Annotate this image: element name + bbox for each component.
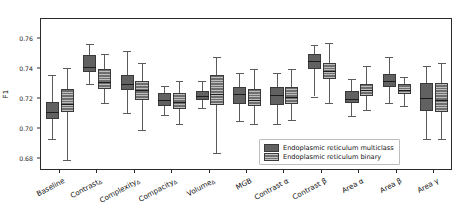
median-line xyxy=(435,100,448,101)
whisker-cap-lower xyxy=(363,110,371,111)
whisker-cap-upper xyxy=(86,44,94,45)
box xyxy=(435,83,448,112)
whisker-cap-lower xyxy=(423,139,431,140)
median-line xyxy=(360,90,373,91)
median-line xyxy=(61,104,74,105)
box xyxy=(61,89,74,112)
x-tick-label: Area α xyxy=(341,176,366,195)
whisker-cap-upper xyxy=(385,57,393,58)
whisker-cap-lower xyxy=(348,116,356,117)
whisker-cap-upper xyxy=(423,66,431,67)
box xyxy=(248,89,261,106)
legend-label-multiclass: Endoplasmic reticulum multiclass xyxy=(283,144,394,152)
whisker-cap-upper xyxy=(138,63,146,64)
whisker-cap-upper xyxy=(311,45,319,46)
legend-label-binary: Endoplasmic reticulum binary xyxy=(283,153,381,161)
median-line xyxy=(345,99,358,100)
whisker-cap-lower xyxy=(123,113,131,114)
box xyxy=(83,55,96,72)
whisker-cap-upper xyxy=(236,73,244,74)
whisker-cap-upper xyxy=(325,43,333,44)
legend-item-binary: Endoplasmic reticulum binary xyxy=(264,152,394,161)
y-axis: 0.760.740.720.700.68 xyxy=(0,0,40,222)
median-line xyxy=(383,81,396,82)
x-tick-label: CompacityΔ xyxy=(137,176,178,204)
whisker-cap-lower xyxy=(198,108,206,109)
whisker-cap-upper xyxy=(123,51,131,52)
box xyxy=(285,87,298,104)
y-tick-label: 0.76 xyxy=(19,34,33,41)
whisker-cap-lower xyxy=(236,121,244,122)
median-line xyxy=(46,112,59,113)
median-line xyxy=(398,90,411,91)
whisker-cap-lower xyxy=(250,124,258,125)
legend-swatch-multiclass xyxy=(264,144,279,152)
whisker-cap-lower xyxy=(86,84,94,85)
x-tick-mark xyxy=(246,170,247,173)
whisker-cap-upper xyxy=(438,63,446,64)
whisker-line xyxy=(314,45,315,97)
median-line xyxy=(83,67,96,68)
median-line xyxy=(248,100,261,101)
x-tick-mark xyxy=(59,170,60,173)
box xyxy=(420,83,433,111)
x-tick-mark xyxy=(321,170,322,173)
x-tick-label: Contrast β xyxy=(291,176,328,202)
whisker-cap-lower xyxy=(48,139,56,140)
whisker-cap-upper xyxy=(63,68,71,69)
whisker-cap-lower xyxy=(213,153,221,154)
whisker-cap-lower xyxy=(311,97,319,98)
median-line xyxy=(270,95,283,96)
whisker-cap-upper xyxy=(348,79,356,80)
median-line xyxy=(121,84,134,85)
median-line xyxy=(420,98,433,99)
y-tick-label: 0.70 xyxy=(19,124,33,131)
whisker-cap-lower xyxy=(400,106,408,107)
whisker-cap-upper xyxy=(198,81,206,82)
x-tick-label: Area β xyxy=(378,176,403,195)
whisker-cap-upper xyxy=(400,77,408,78)
whisker-cap-lower xyxy=(325,103,333,104)
whisker-cap-upper xyxy=(273,73,281,74)
whisker-cap-lower xyxy=(63,160,71,161)
x-tick-label: Area γ xyxy=(416,176,441,195)
x-tick-mark xyxy=(209,170,210,173)
box xyxy=(233,87,246,104)
whisker-cap-upper xyxy=(161,86,169,87)
whisker-cap-lower xyxy=(438,139,446,140)
median-line xyxy=(158,100,171,101)
y-axis-label: F1 xyxy=(2,90,10,99)
box xyxy=(46,102,59,119)
x-tick-label: Contrast α xyxy=(253,176,291,202)
legend-item-multiclass: Endoplasmic reticulum multiclass xyxy=(264,143,394,152)
x-tick-label: MGB xyxy=(234,176,253,192)
median-line xyxy=(308,61,321,62)
x-tick-mark xyxy=(171,170,172,173)
median-line xyxy=(98,82,111,83)
whisker-line xyxy=(216,57,217,153)
whisker-cap-lower xyxy=(288,120,296,121)
box xyxy=(345,91,358,103)
whisker-cap-lower xyxy=(176,124,184,125)
median-line xyxy=(323,71,336,72)
whisker-cap-lower xyxy=(273,124,281,125)
legend: Endoplasmic reticulum multiclass Endopla… xyxy=(259,139,400,165)
x-tick-mark xyxy=(358,170,359,173)
whisker-cap-upper xyxy=(48,75,56,76)
y-tick-label: 0.68 xyxy=(19,154,33,161)
whisker-cap-upper xyxy=(288,69,296,70)
whisker-cap-upper xyxy=(363,66,371,67)
median-line xyxy=(173,102,186,103)
y-tick-label: 0.74 xyxy=(19,64,33,71)
median-line xyxy=(233,94,246,95)
box xyxy=(98,69,111,89)
whisker-cap-lower xyxy=(138,130,146,131)
x-tick-mark xyxy=(396,170,397,173)
boxplot-figure: 0.760.740.720.700.68 F1 BaselineContrast… xyxy=(0,0,465,222)
y-tick-label: 0.72 xyxy=(19,94,33,101)
box xyxy=(210,75,223,105)
x-tick-mark xyxy=(433,170,434,173)
whisker-line xyxy=(67,68,68,160)
legend-swatch-binary xyxy=(264,153,279,161)
x-tick-label: VolumeΔ xyxy=(185,176,216,198)
